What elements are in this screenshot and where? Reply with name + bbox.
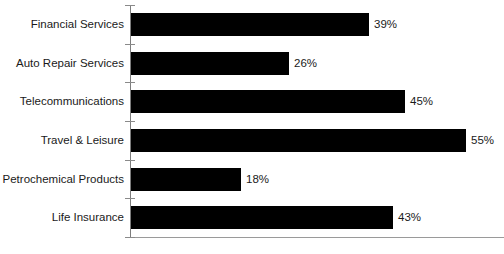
bar-value-label: 39%: [374, 13, 397, 36]
bar-value-label: 18%: [246, 168, 269, 191]
bar-row: Auto Repair Services26%: [0, 52, 504, 75]
category-label: Life Insurance: [0, 206, 124, 229]
category-label: Auto Repair Services: [0, 52, 124, 75]
bar-rows: Financial Services39%Auto Repair Service…: [0, 0, 504, 254]
bar-row: Telecommunications45%: [0, 90, 504, 113]
y-axis-tick: [125, 237, 135, 238]
bar-value-label: 26%: [294, 52, 317, 75]
bar: [131, 13, 369, 36]
y-axis-tick: [125, 121, 135, 122]
bar-row: Life Insurance43%: [0, 206, 504, 229]
y-axis-tick: [125, 44, 135, 45]
bar: [131, 90, 405, 113]
bar: [131, 129, 466, 152]
category-label: Travel & Leisure: [0, 129, 124, 152]
bar-row: Petrochemical Products18%: [0, 168, 504, 191]
y-axis-tick: [125, 5, 135, 6]
bar: [131, 52, 289, 75]
category-label: Petrochemical Products: [0, 168, 124, 191]
bar-value-label: 55%: [471, 129, 494, 152]
y-axis-tick: [125, 82, 135, 83]
bar-value-label: 45%: [410, 90, 433, 113]
y-axis-tick: [125, 160, 135, 161]
bar-row: Travel & Leisure55%: [0, 129, 504, 152]
bar: [131, 206, 393, 229]
bar-chart: Financial Services39%Auto Repair Service…: [0, 0, 504, 254]
bar-value-label: 43%: [398, 206, 421, 229]
bar: [131, 168, 241, 191]
category-label: Financial Services: [0, 13, 124, 36]
bar-row: Financial Services39%: [0, 13, 504, 36]
y-axis-tick: [125, 198, 135, 199]
category-label: Telecommunications: [0, 90, 124, 113]
